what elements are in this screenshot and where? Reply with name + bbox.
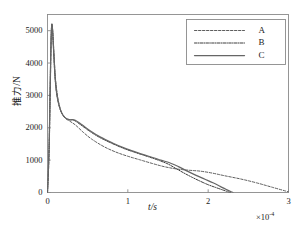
x-axis-multiplier-base: ×10 [256,212,269,222]
y-tick-label: 3000 [11,90,43,100]
x-tick-label: 2 [198,196,218,206]
x-axis-multiplier: ×10-4 [256,211,274,222]
legend-label-c: C [259,50,265,60]
legend-label-a: A [259,25,266,35]
legend-box [187,20,286,65]
x-tick-label: 3 [279,196,299,206]
x-axis-multiplier-exponent: -4 [269,211,274,217]
x-tick-label: 1 [118,196,138,206]
y-tick-label: 5000 [11,25,43,35]
x-axis-label: t/s [148,202,157,212]
y-tick-label: 1000 [11,155,43,165]
y-tick-label: 4000 [11,58,43,68]
y-tick-label: 2000 [11,122,43,132]
legend-label-b: B [259,37,265,47]
thrust-vs-time-chart: 推力/N t/s ×10-4 0100020003000400050000123… [0,0,303,235]
x-tick-label: 0 [38,196,58,206]
